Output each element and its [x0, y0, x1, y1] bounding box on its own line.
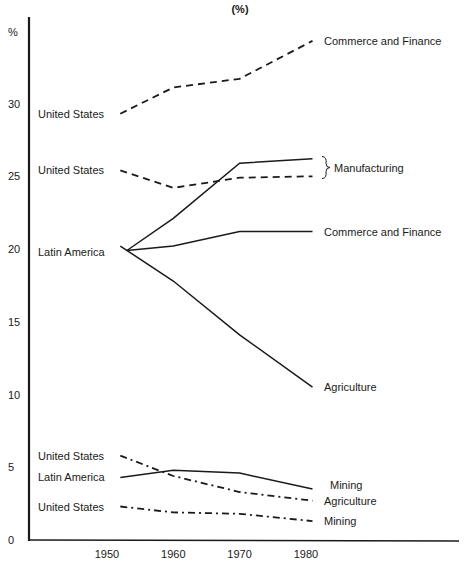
y-tick-label: 20 — [8, 243, 20, 255]
series-label: Commerce and Finance — [324, 226, 441, 238]
series-line — [127, 159, 313, 251]
series-line — [120, 41, 312, 114]
x-tick-label: 1950 — [95, 548, 119, 560]
series-label: Mining — [324, 515, 356, 527]
series-label: United States — [38, 450, 105, 462]
series-label: United States — [38, 164, 105, 176]
x-tick-labels: 1950196019701980 — [95, 548, 318, 560]
series-label: Mining — [330, 479, 362, 491]
series-line — [120, 246, 312, 387]
series-label: Latin America — [38, 246, 106, 258]
y-tick-labels: 051015202530 — [8, 98, 20, 547]
y-tick-label: 15 — [8, 316, 20, 328]
series-line — [120, 170, 312, 188]
x-tick-label: 1980 — [294, 548, 318, 560]
x-tick-label: 1970 — [227, 548, 251, 560]
y-tick-label: 5 — [8, 461, 14, 473]
brace-icon — [322, 157, 330, 179]
y-tick-label: 25 — [8, 170, 20, 182]
left-series-labels: United StatesUnited StatesLatin AmericaU… — [38, 108, 106, 513]
x-axis — [29, 540, 459, 541]
y-tick-label: 10 — [8, 389, 20, 401]
series-label: Commerce and Finance — [324, 35, 441, 47]
series-label: Manufacturing — [334, 162, 404, 174]
series-lines — [120, 41, 312, 521]
y-tick-label: 30 — [8, 98, 20, 110]
series-label: Agriculture — [324, 495, 377, 507]
series-line — [127, 232, 313, 251]
chart-title: (%) — [231, 3, 248, 15]
series-line — [120, 507, 312, 522]
series-line — [120, 470, 312, 489]
series-label: Agriculture — [324, 381, 377, 393]
y-tick-label: 0 — [8, 534, 14, 546]
series-label: United States — [38, 108, 105, 120]
y-axis-label: % — [8, 26, 18, 38]
right-series-labels: Commerce and FinanceManufacturingCommerc… — [322, 35, 441, 527]
series-line — [120, 456, 312, 501]
line-chart: (%) % 051015202530 1950196019701980 Unit… — [0, 0, 468, 566]
series-label: Latin America — [38, 471, 106, 483]
series-label: United States — [38, 501, 105, 513]
x-tick-label: 1960 — [161, 548, 185, 560]
